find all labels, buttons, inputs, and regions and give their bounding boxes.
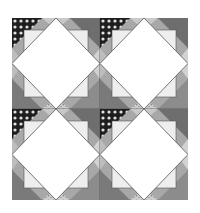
quilt-block-bottom-left [12, 109, 100, 200]
quilt-block-bottom-right [100, 109, 188, 200]
quilt-grid [12, 18, 188, 200]
quilt-block-top-right [100, 18, 188, 109]
quilt-block-top-left [12, 18, 100, 109]
